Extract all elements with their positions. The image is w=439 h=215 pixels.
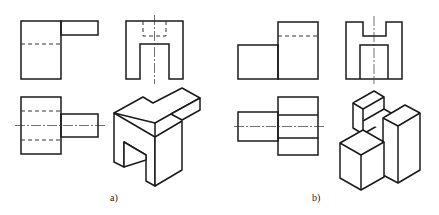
top-tall-block	[278, 97, 318, 155]
panel-a-front-view	[21, 21, 98, 79]
panel-b-isometric-view	[340, 91, 420, 190]
panel-a-label: a)	[110, 192, 118, 204]
front-low-block	[238, 45, 278, 79]
iso-right-face	[155, 121, 182, 186]
panel-b-top-view	[234, 97, 325, 155]
panel-b-side-view	[346, 16, 402, 84]
front-flange	[61, 21, 98, 35]
panel-a-top-view	[15, 97, 105, 154]
panel-b: b)	[234, 16, 420, 204]
panel-a-isometric-view	[114, 88, 200, 186]
front-tall-block	[278, 22, 318, 79]
panel-a-side-view	[126, 15, 183, 84]
panel-a: a)	[15, 15, 200, 204]
orthographic-drawing: a)	[0, 0, 439, 215]
iso-front-cube	[340, 130, 384, 190]
front-main-block	[21, 21, 61, 79]
panel-b-label: b)	[312, 192, 320, 204]
panel-b-front-view	[238, 22, 318, 79]
